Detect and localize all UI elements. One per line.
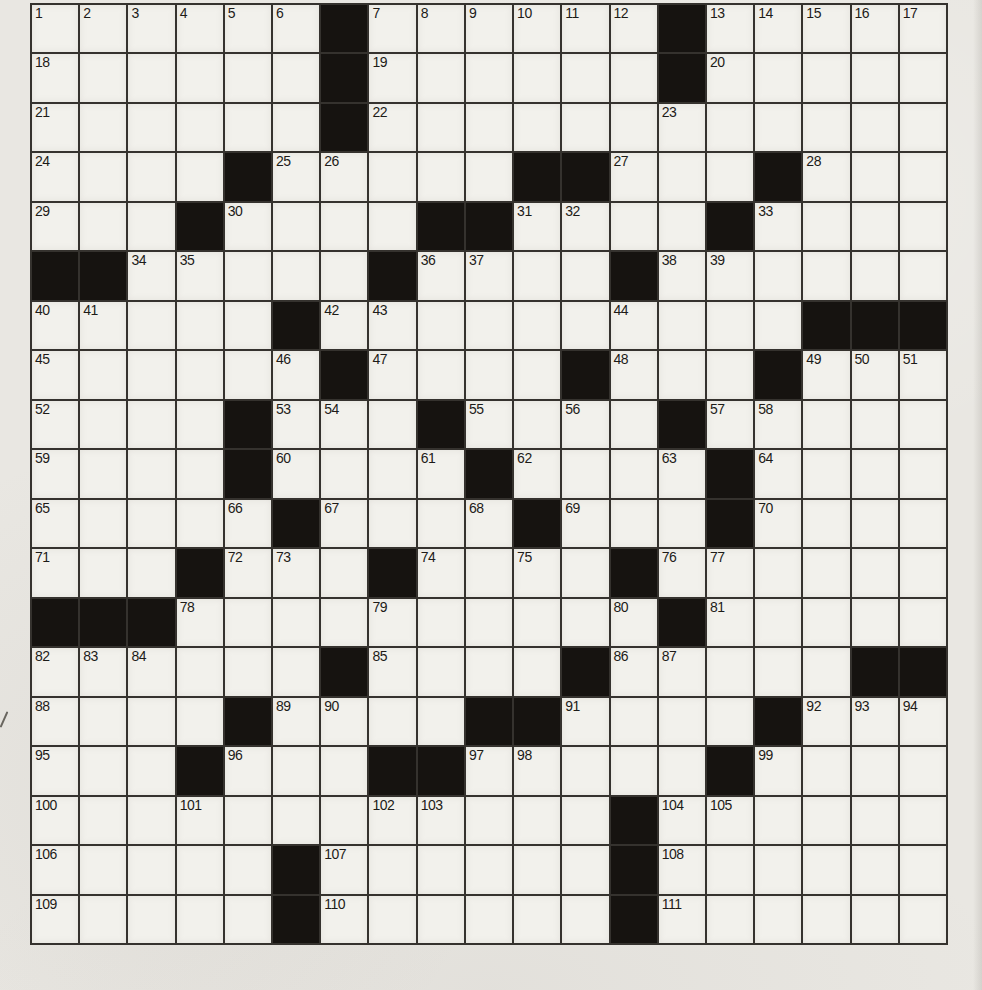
grid-cell[interactable]: 81 — [707, 599, 753, 646]
grid-cell[interactable]: 102 — [369, 797, 415, 844]
grid-cell[interactable] — [128, 846, 174, 893]
grid-cell[interactable] — [755, 104, 801, 151]
grid-cell[interactable] — [369, 153, 415, 200]
grid-cell[interactable] — [225, 302, 271, 349]
grid-cell[interactable] — [273, 54, 319, 101]
grid-cell[interactable] — [900, 153, 946, 200]
grid-cell[interactable] — [852, 500, 898, 547]
grid-cell[interactable] — [707, 302, 753, 349]
grid-cell[interactable]: 36 — [418, 252, 464, 299]
grid-cell[interactable] — [514, 648, 560, 695]
grid-cell[interactable] — [80, 203, 126, 250]
grid-cell[interactable]: 29 — [32, 203, 78, 250]
grid-cell[interactable] — [514, 104, 560, 151]
grid-cell[interactable]: 42 — [321, 302, 367, 349]
grid-cell[interactable] — [418, 500, 464, 547]
grid-cell[interactable] — [707, 896, 753, 943]
grid-cell[interactable] — [755, 846, 801, 893]
grid-cell[interactable] — [128, 698, 174, 745]
grid-cell[interactable] — [562, 450, 608, 497]
grid-cell[interactable]: 87 — [659, 648, 705, 695]
grid-cell[interactable]: 32 — [562, 203, 608, 250]
grid-cell[interactable] — [369, 500, 415, 547]
grid-cell[interactable]: 33 — [755, 203, 801, 250]
grid-cell[interactable] — [514, 599, 560, 646]
grid-cell[interactable] — [177, 54, 223, 101]
grid-cell[interactable] — [611, 203, 657, 250]
grid-cell[interactable] — [803, 549, 849, 596]
grid-cell[interactable] — [128, 104, 174, 151]
grid-cell[interactable]: 28 — [803, 153, 849, 200]
grid-cell[interactable] — [803, 747, 849, 794]
grid-cell[interactable] — [514, 896, 560, 943]
grid-cell[interactable] — [369, 846, 415, 893]
grid-cell[interactable] — [755, 54, 801, 101]
grid-cell[interactable]: 110 — [321, 896, 367, 943]
grid-cell[interactable] — [80, 896, 126, 943]
grid-cell[interactable] — [80, 500, 126, 547]
grid-cell[interactable]: 39 — [707, 252, 753, 299]
grid-cell[interactable] — [418, 648, 464, 695]
grid-cell[interactable] — [803, 599, 849, 646]
grid-cell[interactable]: 50 — [852, 351, 898, 398]
grid-cell[interactable]: 86 — [611, 648, 657, 695]
grid-cell[interactable] — [418, 104, 464, 151]
grid-cell[interactable]: 105 — [707, 797, 753, 844]
grid-cell[interactable]: 97 — [466, 747, 512, 794]
grid-cell[interactable] — [466, 302, 512, 349]
grid-cell[interactable] — [466, 104, 512, 151]
grid-cell[interactable]: 104 — [659, 797, 705, 844]
grid-cell[interactable] — [803, 896, 849, 943]
grid-cell[interactable] — [225, 252, 271, 299]
grid-cell[interactable] — [225, 104, 271, 151]
grid-cell[interactable]: 5 — [225, 5, 271, 52]
grid-cell[interactable] — [852, 747, 898, 794]
grid-cell[interactable] — [707, 698, 753, 745]
grid-cell[interactable]: 24 — [32, 153, 78, 200]
grid-cell[interactable] — [803, 104, 849, 151]
grid-cell[interactable] — [562, 896, 608, 943]
grid-cell[interactable]: 16 — [852, 5, 898, 52]
grid-cell[interactable] — [514, 54, 560, 101]
grid-cell[interactable] — [514, 351, 560, 398]
grid-cell[interactable]: 89 — [273, 698, 319, 745]
grid-cell[interactable] — [852, 54, 898, 101]
grid-cell[interactable] — [466, 648, 512, 695]
grid-cell[interactable]: 88 — [32, 698, 78, 745]
grid-cell[interactable]: 85 — [369, 648, 415, 695]
grid-cell[interactable] — [418, 351, 464, 398]
grid-cell[interactable] — [514, 401, 560, 448]
grid-cell[interactable]: 67 — [321, 500, 367, 547]
grid-cell[interactable]: 63 — [659, 450, 705, 497]
grid-cell[interactable]: 17 — [900, 5, 946, 52]
grid-cell[interactable] — [611, 747, 657, 794]
grid-cell[interactable]: 78 — [177, 599, 223, 646]
grid-cell[interactable] — [900, 203, 946, 250]
grid-cell[interactable] — [128, 203, 174, 250]
grid-cell[interactable]: 107 — [321, 846, 367, 893]
grid-cell[interactable] — [225, 648, 271, 695]
grid-cell[interactable] — [80, 401, 126, 448]
grid-cell[interactable] — [852, 153, 898, 200]
grid-cell[interactable] — [177, 698, 223, 745]
grid-cell[interactable] — [321, 450, 367, 497]
grid-cell[interactable] — [466, 599, 512, 646]
grid-cell[interactable] — [562, 302, 608, 349]
grid-cell[interactable] — [177, 401, 223, 448]
grid-cell[interactable] — [418, 54, 464, 101]
grid-cell[interactable] — [273, 797, 319, 844]
grid-cell[interactable] — [755, 797, 801, 844]
grid-cell[interactable] — [80, 797, 126, 844]
grid-cell[interactable]: 71 — [32, 549, 78, 596]
grid-cell[interactable] — [273, 648, 319, 695]
grid-cell[interactable]: 30 — [225, 203, 271, 250]
grid-cell[interactable]: 9 — [466, 5, 512, 52]
grid-cell[interactable] — [80, 846, 126, 893]
grid-cell[interactable] — [852, 252, 898, 299]
grid-cell[interactable] — [514, 252, 560, 299]
grid-cell[interactable]: 108 — [659, 846, 705, 893]
grid-cell[interactable]: 15 — [803, 5, 849, 52]
grid-cell[interactable]: 13 — [707, 5, 753, 52]
grid-cell[interactable]: 48 — [611, 351, 657, 398]
grid-cell[interactable]: 111 — [659, 896, 705, 943]
